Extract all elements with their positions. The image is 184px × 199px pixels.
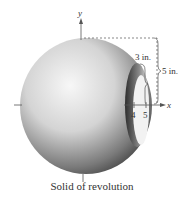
- tick-label-5: 5: [143, 110, 148, 120]
- figure-caption: Solid of revolution: [0, 180, 184, 192]
- dimension-label-3-in: 3 in.: [135, 52, 151, 62]
- x-axis-label: x: [166, 100, 171, 110]
- y-axis-arrow: [79, 18, 83, 24]
- x-axis-arrow: [160, 103, 166, 107]
- tick-label-4: 4: [131, 110, 136, 120]
- solid-of-revolution-diagram: y x 4 5 3 in. 5 in.: [0, 0, 184, 199]
- y-axis-label: y: [77, 8, 82, 18]
- brace-5-in: [154, 38, 161, 104]
- dimension-label-5-in: 5 in.: [162, 66, 178, 76]
